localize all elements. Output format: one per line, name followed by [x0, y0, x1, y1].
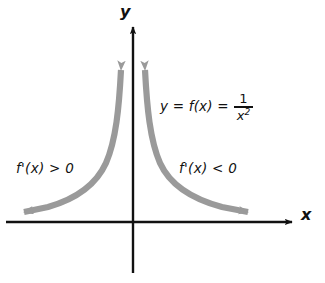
curve-left-branch: [24, 70, 121, 212]
y-axis-label: y: [120, 4, 130, 20]
left-branch-derivative-annotation: f'(x) > 0: [16, 162, 74, 176]
equation-fraction: 1 x2: [234, 92, 253, 122]
denominator-exponent: 2: [244, 106, 250, 116]
equation-left-hand-side: y = f(x) =: [160, 100, 229, 114]
x-axis-label: x: [301, 207, 311, 223]
fraction-denominator: x2: [234, 108, 253, 122]
function-graph-figure: y x y = f(x) = 1 x2 f'(x) > 0 f'(x) < 0: [0, 0, 325, 283]
fraction-numerator: 1: [236, 92, 250, 106]
right-branch-derivative-annotation: f'(x) < 0: [179, 162, 237, 176]
equation-label: y = f(x) = 1 x2: [160, 92, 253, 122]
graph-canvas: [0, 0, 325, 283]
